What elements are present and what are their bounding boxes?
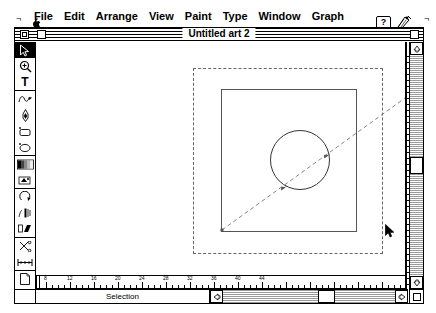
menu-item-file[interactable]: File bbox=[34, 9, 53, 23]
type-t-icon: T bbox=[21, 76, 28, 88]
mouse-pointer-arrow bbox=[385, 224, 395, 238]
menu-item-graph[interactable]: Graph bbox=[312, 9, 344, 23]
scroll-right-arrow[interactable] bbox=[395, 290, 408, 303]
pen-tool[interactable] bbox=[15, 107, 35, 123]
bottom-left-corner bbox=[15, 289, 36, 303]
menu-item-arrange[interactable]: Arrange bbox=[96, 9, 138, 23]
scissors-tool[interactable] bbox=[15, 238, 35, 254]
menu-item-paint[interactable]: Paint bbox=[185, 9, 212, 23]
selection-tool[interactable] bbox=[15, 42, 35, 58]
ruler-label-h-4: 24 bbox=[139, 276, 145, 281]
horizontal-scroll-thumb[interactable] bbox=[318, 290, 335, 303]
menu-item-view[interactable]: View bbox=[149, 9, 174, 23]
freehand-tool[interactable] bbox=[15, 91, 35, 107]
vertical-scroll-thumb[interactable] bbox=[410, 157, 423, 174]
corner-mark-right: ¬ bbox=[424, 15, 429, 23]
shear-tool[interactable] bbox=[15, 221, 35, 237]
scroll-down-arrow[interactable] bbox=[410, 276, 423, 289]
corner-mark-left: ¬ bbox=[16, 15, 21, 23]
artboard-canvas[interactable] bbox=[36, 42, 422, 289]
horizontal-ruler[interactable]: 8 12 16 20 24 28 32 36 40 44 bbox=[36, 275, 422, 289]
menu-bar: ¬ ¬ File Edit Arrange View Paint Type Wi… bbox=[0, 6, 436, 26]
rotate-tool[interactable] bbox=[15, 189, 35, 205]
ruler-label-h-3: 20 bbox=[115, 276, 121, 281]
oval-tool[interactable] bbox=[15, 139, 35, 155]
menu-item-list: File Edit Arrange View Paint Type Window… bbox=[34, 8, 344, 24]
type-tool[interactable]: T bbox=[15, 74, 35, 90]
ruler-label-h-0: 8 bbox=[44, 276, 47, 281]
ruler-label-h-1: 12 bbox=[67, 276, 73, 281]
toolbox-palette: T bbox=[15, 42, 36, 289]
rectangle-tool[interactable] bbox=[15, 123, 35, 139]
ruler-label-h-5: 28 bbox=[163, 276, 169, 281]
menu-item-type[interactable]: Type bbox=[223, 9, 248, 23]
ruler-label-h-7: 36 bbox=[211, 276, 217, 281]
ruler-label-h-6: 32 bbox=[187, 276, 193, 281]
page-tool[interactable] bbox=[15, 271, 35, 287]
document-window: Untitled art 2 T bbox=[14, 27, 424, 304]
title-grow-box[interactable] bbox=[410, 30, 419, 39]
scale-tool[interactable] bbox=[15, 205, 35, 221]
status-bar: Selection bbox=[36, 289, 210, 303]
status-text: Selection bbox=[106, 292, 139, 302]
screen: ¬ ¬ File Edit Arrange View Paint Type Wi… bbox=[0, 0, 436, 313]
vertical-scrollbar[interactable] bbox=[409, 42, 423, 289]
blend-tool[interactable] bbox=[15, 156, 35, 172]
measure-tool[interactable] bbox=[15, 254, 35, 270]
ruler-label-h-9: 44 bbox=[259, 276, 265, 281]
paint-tool[interactable] bbox=[15, 172, 35, 188]
close-box[interactable] bbox=[20, 30, 29, 39]
scroll-up-arrow[interactable] bbox=[410, 42, 423, 55]
menu-item-window[interactable]: Window bbox=[259, 9, 301, 23]
zoom-box[interactable] bbox=[37, 30, 46, 39]
window-title: Untitled art 2 bbox=[182, 28, 255, 40]
ruler-label-h-2: 16 bbox=[91, 276, 97, 281]
window-title-bar[interactable]: Untitled art 2 bbox=[15, 28, 423, 41]
grow-box[interactable] bbox=[409, 289, 423, 303]
horizontal-scrollbar[interactable] bbox=[210, 289, 408, 303]
ruler-label-h-8: 40 bbox=[235, 276, 241, 281]
zoom-tool[interactable] bbox=[15, 58, 35, 74]
menu-item-edit[interactable]: Edit bbox=[64, 9, 85, 23]
circle-path[interactable] bbox=[270, 130, 330, 190]
scroll-left-arrow[interactable] bbox=[210, 290, 223, 303]
